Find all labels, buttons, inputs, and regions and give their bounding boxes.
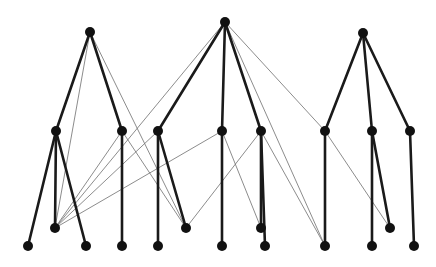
graph-edge-thick bbox=[372, 131, 390, 228]
graph-vertex bbox=[367, 126, 377, 136]
graph-vertex bbox=[217, 126, 227, 136]
graph-edge-thin bbox=[55, 22, 225, 228]
graph-edge-thin bbox=[55, 131, 158, 228]
graph-vertex bbox=[358, 28, 368, 38]
graph-vertex bbox=[405, 126, 415, 136]
graph-vertex bbox=[217, 241, 227, 251]
graph-vertex bbox=[23, 241, 33, 251]
graph-edge-thick bbox=[90, 32, 122, 131]
graph-vertex bbox=[85, 27, 95, 37]
graph-edge-thin bbox=[222, 131, 261, 228]
graph-edge-thick bbox=[225, 22, 261, 131]
graph-edge-thick bbox=[325, 33, 363, 131]
graph-vertex bbox=[117, 126, 127, 136]
graph-vertex bbox=[153, 241, 163, 251]
graph-edge-thin bbox=[225, 22, 325, 131]
graph-vertex bbox=[409, 241, 419, 251]
graph-vertex bbox=[320, 126, 330, 136]
graph-vertex bbox=[181, 223, 191, 233]
graph-vertex bbox=[320, 241, 330, 251]
graph-edge-thin bbox=[122, 131, 186, 228]
graph-edge-thin bbox=[261, 131, 325, 246]
graph-vertex bbox=[385, 223, 395, 233]
graph-edge-thick bbox=[410, 131, 414, 246]
graph-edge-thick bbox=[56, 32, 90, 131]
graph-figure bbox=[0, 0, 436, 267]
graph-vertex bbox=[117, 241, 127, 251]
graph-vertex bbox=[81, 241, 91, 251]
graph-vertex bbox=[256, 223, 266, 233]
graph-vertex bbox=[220, 17, 230, 27]
graph-canvas bbox=[0, 0, 436, 267]
graph-vertex bbox=[153, 126, 163, 136]
graph-edge-thick bbox=[55, 131, 56, 228]
graph-vertex bbox=[367, 241, 377, 251]
graph-vertex bbox=[256, 126, 266, 136]
graph-vertex bbox=[260, 241, 270, 251]
graph-edge-thick bbox=[222, 22, 225, 131]
graph-edge-thin bbox=[90, 32, 186, 228]
graph-edge-thin bbox=[55, 131, 122, 228]
graph-vertex bbox=[51, 126, 61, 136]
graph-edge-thick bbox=[56, 131, 86, 246]
graph-vertex bbox=[50, 223, 60, 233]
graph-edge-thin bbox=[225, 22, 325, 246]
graph-edge-thick bbox=[158, 22, 225, 131]
